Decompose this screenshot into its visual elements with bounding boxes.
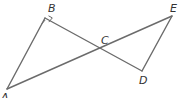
segment-de [142,16,172,71]
label-e: E [170,2,177,15]
label-a: A [0,91,9,98]
geometry-diagram: A B C D E [0,0,185,98]
label-d: D [139,74,147,87]
label-c: C [101,34,109,47]
segment-ab [7,18,45,89]
label-b: B [48,2,56,15]
segment-bd [45,18,142,71]
